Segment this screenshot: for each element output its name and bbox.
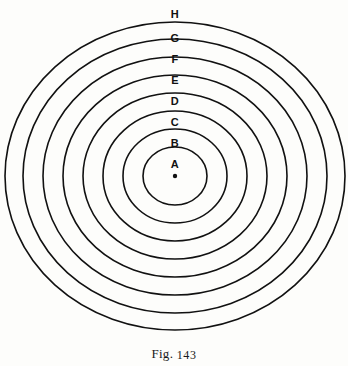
- center-point-dot: [173, 174, 177, 178]
- caption-number: 143: [177, 348, 197, 362]
- ring-label-B: B: [171, 138, 179, 149]
- figure-root: H G F E D C B A Fig. 143: [0, 0, 348, 366]
- ring-label-E: E: [171, 75, 179, 86]
- concentric-circles-diagram: H G F E D C B A: [0, 0, 348, 340]
- figure-caption: Fig. 143: [0, 346, 348, 362]
- ring-label-D: D: [171, 96, 179, 107]
- ring-label-H: H: [171, 9, 179, 20]
- ring-label-F: F: [171, 54, 178, 65]
- ring-label-G: G: [171, 33, 180, 44]
- ring-label-C: C: [171, 117, 179, 128]
- caption-label: Fig.: [151, 346, 173, 361]
- ring-label-A: A: [171, 159, 179, 170]
- diagram-canvas: [0, 0, 348, 340]
